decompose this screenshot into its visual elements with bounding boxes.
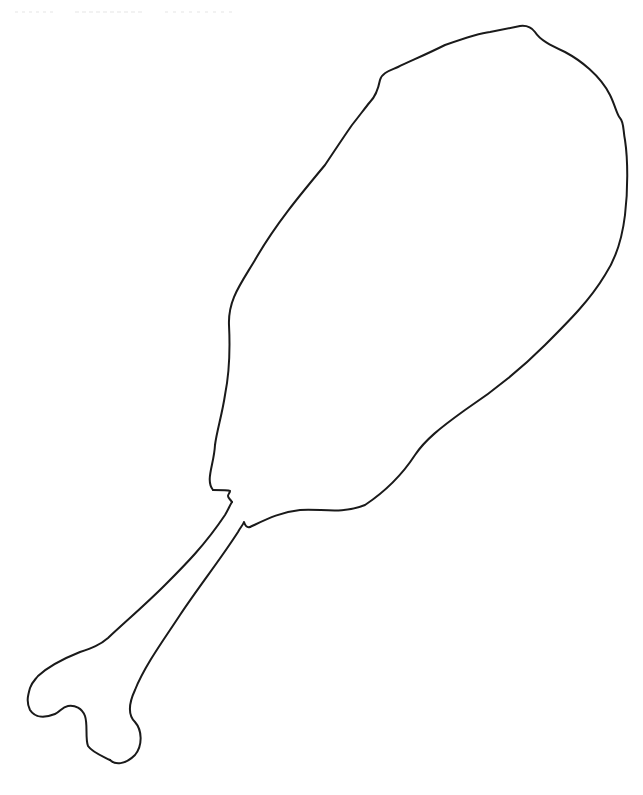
- drumstick-drawing: [0, 0, 643, 795]
- meat-outline: [210, 26, 628, 527]
- bone-shaft-right: [110, 522, 250, 763]
- bone-knob: [28, 502, 232, 760]
- meat-bone-junction: [213, 490, 232, 502]
